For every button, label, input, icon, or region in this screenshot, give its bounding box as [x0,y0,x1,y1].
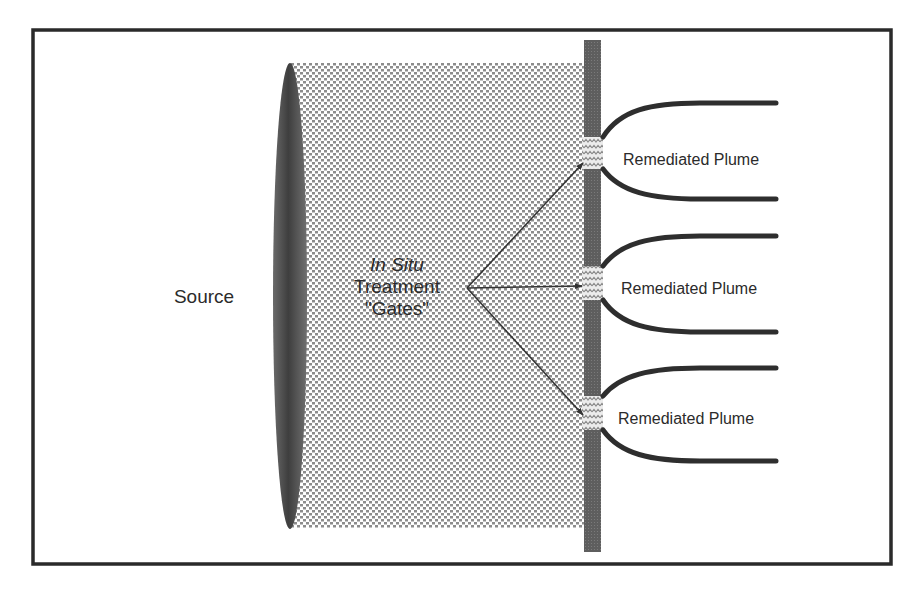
gates-label-line3: "Gates" [365,298,429,319]
remediated-plume-label-1: Remediated Plume [623,151,759,168]
remediated-plume-label-3: Remediated Plume [618,410,754,427]
source-ellipse [273,63,307,529]
remediated-plume-label-2: Remediated Plume [621,280,757,297]
gate-1 [582,137,603,169]
gates-label-line1: In Situ [370,254,424,275]
gate-2 [582,266,603,300]
source-label: Source [174,286,234,307]
funnel-and-gate-diagram: Source In Situ Treatment "Gates" Remedia… [0,0,922,589]
gates-label-line2: Treatment [354,276,441,297]
gate-3 [582,396,603,430]
